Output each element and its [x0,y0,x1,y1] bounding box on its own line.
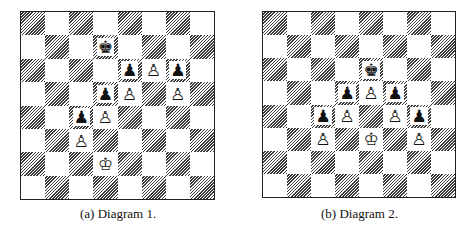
square-e4 [118,106,142,129]
square-a8 [21,12,45,35]
square-h3 [190,129,214,152]
square-g5: ♙ [166,82,190,105]
square-d1 [335,174,359,197]
white-pawn-icon: ♙ [169,85,186,103]
square-f8 [142,12,166,35]
square-a7 [21,35,45,58]
square-g5 [407,81,431,104]
square-g2 [166,152,190,175]
white-pawn-icon: ♙ [121,85,138,103]
square-h1 [190,176,214,199]
square-a5 [21,82,45,105]
square-e3: ♔ [359,128,383,151]
square-a7 [263,35,287,58]
square-d7 [335,35,359,58]
square-h1 [431,174,455,197]
square-c2 [311,151,335,174]
square-a4 [263,105,287,128]
square-b8 [45,12,69,35]
white-pawn-icon: ♙ [338,107,355,125]
square-d3 [93,129,117,152]
square-f5 [142,82,166,105]
square-c6 [69,59,93,82]
black-pawn-icon: ♟ [121,61,138,79]
square-c7 [311,35,335,58]
square-b2 [287,151,311,174]
square-c4: ♟ [311,105,335,128]
square-b6 [45,59,69,82]
square-h6 [190,59,214,82]
square-e4 [359,105,383,128]
chessboard-diagram-2: ♚♟♙♟♟♙♙♟♙♔♙ [262,11,456,198]
white-pawn-icon: ♙ [73,132,90,150]
square-a3 [263,128,287,151]
square-b1 [287,174,311,197]
square-e5: ♙ [359,81,383,104]
square-f1 [383,174,407,197]
square-a6 [263,58,287,81]
square-a3 [21,129,45,152]
square-a6 [21,59,45,82]
square-c6 [311,58,335,81]
square-d2 [335,151,359,174]
black-pawn-icon: ♟ [410,107,427,125]
square-g6 [407,58,431,81]
square-c7 [69,35,93,58]
square-e8 [359,12,383,35]
square-e5: ♙ [118,82,142,105]
square-f2 [383,151,407,174]
square-h8 [431,12,455,35]
square-f2 [142,152,166,175]
square-b2 [45,152,69,175]
square-b3 [287,128,311,151]
square-b5 [45,82,69,105]
square-f4 [142,106,166,129]
white-pawn-icon: ♙ [410,130,427,148]
square-c3: ♙ [311,128,335,151]
square-a4 [21,106,45,129]
square-e2 [118,152,142,175]
square-h5 [431,81,455,104]
square-h3 [431,128,455,151]
square-h5 [190,82,214,105]
square-d1 [93,176,117,199]
white-pawn-icon: ♙ [97,108,114,126]
square-e7 [359,35,383,58]
square-h8 [190,12,214,35]
square-g7 [407,35,431,58]
caption-diagram-2: (b) Diagram 2. [321,206,398,222]
square-f3 [383,128,407,151]
square-h2 [431,151,455,174]
square-c4: ♟ [69,106,93,129]
square-f7 [383,35,407,58]
square-h7 [190,35,214,58]
black-pawn-icon: ♟ [386,84,403,102]
square-d2: ♔ [93,152,117,175]
square-e7 [118,35,142,58]
square-b7 [45,35,69,58]
square-a1 [263,174,287,197]
square-h4 [431,105,455,128]
square-e6: ♚ [359,58,383,81]
square-a2 [21,152,45,175]
square-d3 [335,128,359,151]
square-c1 [311,174,335,197]
square-d4: ♙ [93,106,117,129]
square-b1 [45,176,69,199]
black-pawn-icon: ♟ [338,84,355,102]
square-b4 [287,105,311,128]
square-g1 [407,174,431,197]
square-d6 [335,58,359,81]
black-king-icon: ♚ [362,61,379,79]
square-f7 [142,35,166,58]
square-c1 [69,176,93,199]
square-g2 [407,151,431,174]
square-d7: ♚ [93,35,117,58]
square-d5: ♟ [335,81,359,104]
square-f6 [383,58,407,81]
square-e1 [118,176,142,199]
white-pawn-icon: ♙ [386,107,403,125]
square-g3 [166,129,190,152]
square-e6: ♟ [118,59,142,82]
black-pawn-icon: ♟ [97,85,114,103]
